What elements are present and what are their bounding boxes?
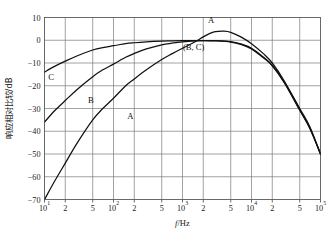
x-tick-2000: 2 (201, 204, 205, 213)
x-tick-200: 2 (132, 204, 136, 213)
x-tick-20000: 2 (270, 204, 274, 213)
x-axis-tick-labels: 10125102251032510425105 (39, 200, 326, 214)
y-tick--20: −20 (28, 82, 41, 91)
y-tick--10: −10 (28, 59, 41, 68)
x-tick-50: 5 (91, 204, 95, 213)
y-tick--30: −30 (28, 105, 41, 114)
curve-label-b-left: B (88, 95, 94, 105)
x-tick-20: 2 (63, 204, 67, 213)
x-tick-500: 5 (160, 204, 164, 213)
x-axis-title: f/Hz (175, 218, 190, 228)
y-tick-0: 0 (36, 36, 40, 45)
figure-container: 10125102251032510425105 100−10−20−30−40−… (0, 0, 336, 242)
y-tick--50: −50 (28, 150, 41, 159)
curve-label-a-left: A (127, 111, 134, 121)
y-axis-title: 响应相对比较/dB (4, 77, 14, 139)
x-tick-50000: 5 (298, 204, 302, 213)
y-tick--40: −40 (28, 127, 41, 136)
y-tick--70: −70 (28, 196, 41, 205)
curve-label-c-left: C (48, 72, 54, 82)
x-tick-5000: 5 (229, 204, 233, 213)
frequency-response-chart: 10125102251032510425105 100−10−20−30−40−… (0, 0, 336, 242)
curve-label-bc-peak: (B, C) (183, 42, 205, 52)
y-axis-tick-labels: 100−10−20−30−40−50−60−70 (28, 14, 41, 205)
curve-annotations: A(B, C)CBA (48, 15, 215, 121)
y-tick--60: −60 (28, 173, 41, 182)
y-tick-10: 10 (32, 14, 40, 23)
curve-label-a-peak: A (208, 15, 215, 25)
